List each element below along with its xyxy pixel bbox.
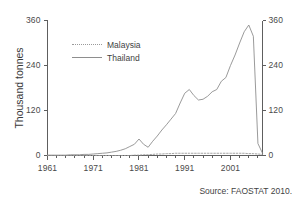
- chart-legend: Malaysia Thailand: [72, 38, 167, 64]
- y-axis-label: Thousand tonnes: [13, 23, 25, 153]
- y-tick-label-right-360: 360: [269, 15, 283, 25]
- y-tick-label-right-120: 120: [269, 105, 283, 115]
- y-tick-label-left-360: 360: [0, 15, 41, 25]
- legend-swatch-malaysia: [72, 41, 102, 48]
- y-tick-label-left-240: 240: [0, 60, 41, 70]
- chart-figure: Thousand tonnes 001201202402403603601961…: [0, 0, 302, 205]
- x-tick-label-1991: 1991: [165, 163, 205, 173]
- x-tick-label-1971: 1971: [73, 163, 113, 173]
- y-tick-label-left-0: 0: [0, 150, 41, 160]
- legend-label-thailand: Thailand: [107, 53, 140, 63]
- y-tick-label-right-0: 0: [269, 150, 274, 160]
- legend-label-malaysia: Malaysia: [107, 40, 141, 50]
- source-note: Source: FAOSTAT 2010.: [0, 186, 292, 196]
- y-tick-label-left-120: 120: [0, 105, 41, 115]
- legend-item-thailand: Thailand: [72, 51, 167, 64]
- x-tick-label-1961: 1961: [28, 163, 68, 173]
- chart-plot-area: [0, 0, 302, 205]
- x-tick-label-1981: 1981: [119, 163, 159, 173]
- legend-swatch-thailand: [72, 54, 102, 61]
- y-tick-label-right-240: 240: [269, 60, 283, 70]
- legend-item-malaysia: Malaysia: [72, 38, 167, 51]
- x-tick-label-2001: 2001: [210, 163, 250, 173]
